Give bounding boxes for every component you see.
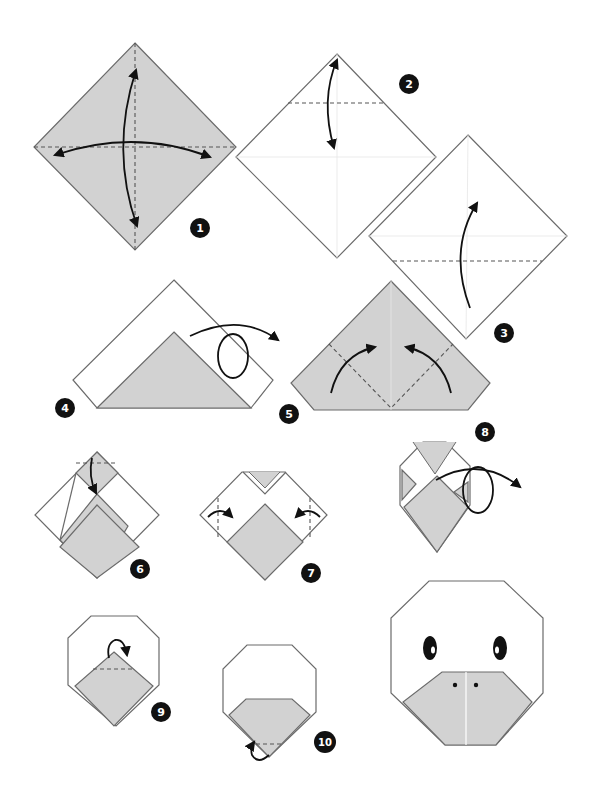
step-badge-1: 1 [190,218,210,238]
svg-text:2: 2 [405,78,413,91]
step-1: 1 [34,43,236,250]
svg-text:9: 9 [157,706,165,719]
step-4: 4 [55,280,278,418]
svg-text:1: 1 [196,222,204,235]
step-badge-7: 7 [301,563,321,583]
step-8: 8 [400,422,520,552]
left-eye [423,636,437,660]
right-eye [493,636,507,660]
left-nostril [453,683,457,687]
step-badge-6: 6 [130,559,150,579]
step-badge-2: 2 [399,74,419,94]
right-nostril [474,683,478,687]
svg-text:4: 4 [61,402,69,415]
step-6: 6 [35,452,159,579]
svg-text:3: 3 [500,327,508,340]
svg-text:5: 5 [285,408,293,421]
step-badge-10: 10 [314,731,336,753]
svg-text:10: 10 [318,737,332,748]
svg-text:6: 6 [136,563,144,576]
svg-text:8: 8 [481,426,489,439]
step-badge-3: 3 [494,323,514,343]
final-duck-face [391,581,543,745]
origami-diagram: 1 2 3 4 [0,0,601,800]
step-badge-4: 4 [55,398,75,418]
svg-text:7: 7 [307,567,315,580]
step-badge-8: 8 [475,422,495,442]
step-10: 10 [223,645,336,760]
step-badge-5: 5 [279,404,299,424]
step-9: 9 [68,616,171,726]
step-7: 7 [200,472,327,583]
step-badge-9: 9 [151,702,171,722]
